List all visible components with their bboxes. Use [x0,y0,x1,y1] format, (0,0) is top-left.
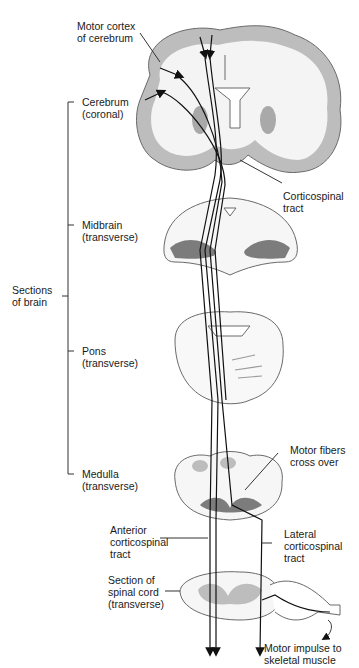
midbrain-section [164,198,297,275]
label-spinal-cord-section: Section of spinal cord (transverse) [108,574,164,610]
label-cerebrum: Cerebrum (coronal) [82,96,129,120]
medulla-section [175,452,283,521]
corticospinal-pathway-diagram [0,0,359,668]
label-anterior-corticospinal-tract: Anterior corticospinal tract [110,524,168,560]
label-medulla: Medulla (transverse) [82,468,138,492]
label-corticospinal-tract: Corticospinal tract [283,190,344,214]
label-motor-fibers-cross-over: Motor fibers cross over [290,444,345,468]
cerebrum-section [136,26,340,173]
label-lateral-corticospinal-tract: Lateral corticospinal tract [284,528,342,564]
pons-section [175,312,283,404]
label-sections-of-brain: Sections of brain [12,284,52,308]
sections-bracket [62,102,74,474]
label-pons: Pons (transverse) [82,345,138,369]
label-midbrain: Midbrain (transverse) [82,219,138,243]
label-motor-cortex: Motor cortex of cerebrum [77,20,135,44]
label-motor-impulse: Motor impulse to skeletal muscle [264,642,342,666]
